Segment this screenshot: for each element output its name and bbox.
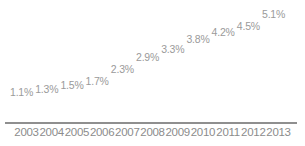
category-label-2013: 2013	[264, 126, 294, 140]
bar-group	[219, 40, 238, 122]
category-axis: 2003 2004 2005 2006 2007 2008 2009 2010 …	[0, 126, 305, 146]
bar-group	[93, 89, 112, 122]
value-label-2011: 4.2%	[212, 27, 235, 38]
value-label-2005: 1.5%	[60, 80, 83, 91]
value-label-2003: 1.1%	[10, 87, 33, 98]
bar-group	[67, 93, 86, 122]
bar-chart: 1.1% 1.3% 1.5% 1.7% 2.3% 2.9% 3.3% 3.8% …	[0, 0, 305, 146]
bar-group	[269, 22, 288, 122]
bar-group	[244, 34, 263, 122]
value-label-2008: 2.9%	[136, 52, 159, 63]
value-label-2004: 1.3%	[35, 84, 58, 95]
value-label-2006: 1.7%	[86, 76, 109, 87]
value-label-2013: 5.1%	[262, 9, 285, 20]
value-label-2010: 3.8%	[186, 34, 209, 45]
value-label-2007: 2.3%	[111, 64, 134, 75]
bar-group	[42, 97, 61, 122]
bar-group	[118, 77, 137, 122]
value-label-2012: 4.5%	[237, 21, 260, 32]
bar-group	[168, 57, 187, 122]
value-label-2009: 3.3%	[161, 44, 184, 55]
bar-group	[143, 65, 162, 122]
bar-group	[17, 100, 36, 122]
bar-group	[193, 48, 212, 123]
plot-area: 1.1% 1.3% 1.5% 1.7% 2.3% 2.9% 3.3% 3.8% …	[0, 0, 305, 124]
x-axis-line	[5, 122, 297, 124]
